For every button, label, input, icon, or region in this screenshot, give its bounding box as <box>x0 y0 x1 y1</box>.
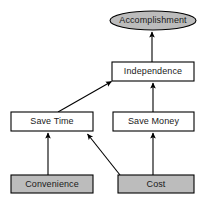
edge-save-time-to-independence <box>58 82 112 113</box>
diagram-canvas <box>0 0 204 202</box>
node-save-time[interactable] <box>11 112 93 131</box>
node-cost[interactable] <box>118 175 194 193</box>
node-save-money[interactable] <box>113 112 194 131</box>
edge-layer <box>48 32 153 175</box>
objectives-network-diagram: Accomplishment Independence Save Time Sa… <box>0 0 204 202</box>
edge-cost-to-save-time <box>88 134 121 175</box>
node-independence[interactable] <box>112 62 194 81</box>
node-accomplishment[interactable] <box>110 11 196 30</box>
node-convenience[interactable] <box>11 175 93 193</box>
node-layer <box>11 11 196 193</box>
